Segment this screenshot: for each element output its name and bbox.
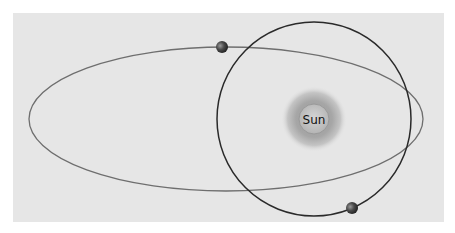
planet-on-ellipse — [216, 41, 228, 53]
orbit-diagram — [0, 0, 455, 233]
elliptical-orbit — [29, 47, 423, 191]
sun-label: Sun — [303, 113, 326, 127]
planet-on-circle — [346, 202, 358, 214]
